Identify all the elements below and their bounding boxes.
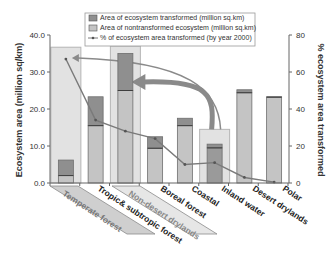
bar-nontransformed (177, 126, 192, 183)
legend: Area of ecosystem transformed (million s… (85, 13, 256, 46)
bar-nontransformed (237, 93, 252, 183)
percent-marker (94, 119, 97, 122)
bar-nontransformed (118, 91, 133, 184)
percent-marker (243, 176, 246, 179)
bar-transformed (207, 144, 222, 148)
y-axis-label: Ecosystem area (million sq/km) (14, 43, 24, 178)
y2-tick-label: 60 (296, 68, 305, 77)
bars (58, 54, 281, 184)
legend-swatch (89, 25, 97, 31)
y2-tick-label: 40 (296, 105, 305, 114)
y-tick-label: 10.0 (29, 142, 45, 151)
bar-transformed (118, 54, 133, 91)
y2-tick-label: 0 (296, 179, 301, 188)
legend-label: Area of ecosystem transformed (million s… (100, 14, 244, 22)
percent-marker (154, 137, 157, 140)
legend-marker (92, 37, 95, 40)
bar-nontransformed (88, 126, 103, 183)
percent-marker (124, 130, 127, 133)
y-tick-label: 30.0 (29, 68, 45, 77)
y-tick-label: 40.0 (29, 31, 45, 40)
y-tick-label: 0.0 (34, 179, 46, 188)
bar-nontransformed (58, 176, 73, 183)
bar-transformed (58, 160, 73, 176)
percent-marker (213, 161, 216, 164)
y2-axis-label: % ecosystem area transformed (316, 43, 326, 176)
y2-tick-label: 80 (296, 31, 305, 40)
y2-tick-label: 20 (296, 142, 305, 151)
legend-label: Area of nontransformed ecosystem (millio… (100, 24, 256, 32)
percent-marker (64, 58, 67, 61)
highlight-boxes (51, 46, 230, 183)
legend-swatch (89, 15, 97, 21)
percent-marker (183, 163, 186, 166)
legend-label: % of ecosystem area transformed (by year… (100, 34, 252, 42)
bar-nontransformed (148, 148, 163, 183)
x-axis-labels: Temperate forestTropic& subtropic forest… (50, 183, 310, 245)
bar-nontransformed (267, 97, 282, 183)
y-tick-label: 20.0 (29, 105, 45, 114)
chart: 0.010.020.030.040.0020406080 Temperate f… (0, 0, 334, 253)
bar-transformed (177, 118, 192, 125)
